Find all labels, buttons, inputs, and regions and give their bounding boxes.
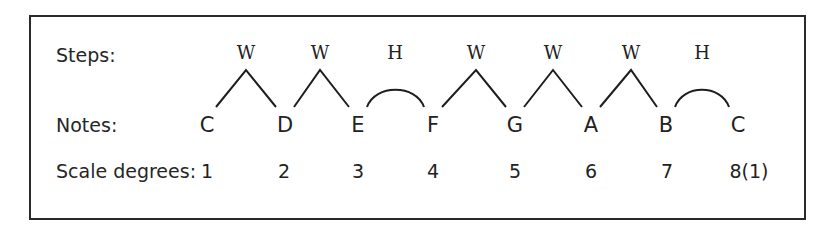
- step-label: W: [544, 42, 563, 63]
- note-label: C: [731, 113, 746, 137]
- scale-degree: 3: [352, 160, 364, 182]
- note-label: C: [200, 113, 215, 137]
- note-label: F: [427, 113, 439, 137]
- scale-degree: 4: [427, 160, 439, 182]
- whole-step-chevron: [216, 70, 276, 107]
- note-label: D: [277, 113, 293, 137]
- whole-step-chevron: [600, 70, 657, 107]
- scale-degree: 8(1): [729, 160, 768, 182]
- step-label: H: [387, 42, 403, 63]
- scale-degree: 7: [661, 160, 673, 182]
- step-label: W: [237, 42, 256, 63]
- scale-degree: 5: [509, 160, 521, 182]
- whole-step-chevron: [524, 70, 582, 107]
- step-connectors: [0, 0, 833, 228]
- step-label: H: [694, 42, 710, 63]
- step-label: W: [622, 42, 641, 63]
- half-step-arc: [367, 90, 424, 107]
- whole-step-chevron: [442, 70, 506, 107]
- scale-degree: 2: [278, 160, 290, 182]
- note-label: E: [351, 113, 364, 137]
- note-label: B: [659, 113, 673, 137]
- step-label: W: [311, 42, 330, 63]
- scale-degree: 1: [201, 160, 213, 182]
- note-label: A: [584, 113, 598, 137]
- scale-degree: 6: [585, 160, 597, 182]
- step-label: W: [467, 42, 486, 63]
- note-label: G: [507, 113, 523, 137]
- whole-step-chevron: [294, 70, 349, 107]
- half-step-arc: [675, 90, 729, 107]
